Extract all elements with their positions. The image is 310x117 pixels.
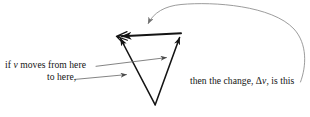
label-then-change-prefix: then the change, (190, 75, 256, 86)
label-then-change-suffix: , is this (266, 75, 294, 86)
label-if-v-moves-from-here: if v moves from here (5, 59, 86, 70)
initial-velocity-vector (121, 39, 156, 105)
vertex-arrowhead-cluster (116, 32, 128, 44)
label-to-here: to here, (47, 71, 76, 82)
vector-change-diagram: if v moves from here to here, then the c… (0, 0, 310, 117)
leader-to-here (75, 75, 127, 80)
label-then-the-change: then the change, Δv, is this (190, 75, 294, 86)
delta-v-callout-curve (148, 4, 305, 82)
label-if-v-moves-suffix: moves from here (18, 59, 86, 70)
delta-v-vector (122, 33, 181, 36)
final-velocity-vector (155, 38, 179, 105)
